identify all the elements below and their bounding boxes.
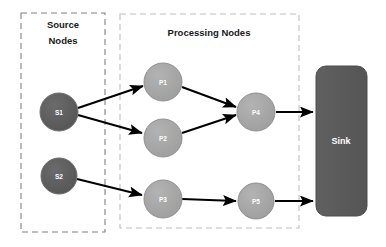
node-p5-label: P5 — [252, 198, 260, 205]
group-source-nodes-label-line2: Nodes — [48, 35, 77, 46]
node-p5[interactable]: P5 — [238, 183, 274, 219]
node-p1-label: P1 — [159, 79, 167, 86]
group-source-nodes-label-line1: Source — [47, 19, 79, 30]
node-p4-label: P4 — [252, 109, 260, 116]
diagram-canvas: Source Nodes Processing Nodes Sink — [0, 0, 386, 247]
group-processing-nodes-label: Processing Nodes — [168, 27, 251, 38]
node-p3[interactable]: P3 — [144, 180, 182, 218]
node-s2-label: S2 — [55, 173, 63, 180]
edge-p3-p5 — [182, 199, 236, 201]
node-s1-label: S1 — [55, 109, 63, 116]
diagram-svg: Source Nodes Processing Nodes Sink — [0, 0, 386, 247]
sink-label: Sink — [331, 136, 351, 146]
node-p2-label: P2 — [159, 135, 167, 142]
node-p1[interactable]: P1 — [144, 63, 182, 101]
node-s2[interactable]: S2 — [41, 158, 77, 194]
edge-p2-p4 — [182, 115, 236, 133]
node-s1[interactable]: S1 — [40, 93, 78, 131]
edge-s1-p2 — [78, 115, 142, 133]
edge-s1-p1 — [78, 86, 143, 108]
node-sink[interactable]: Sink — [316, 66, 367, 216]
node-p3-label: P3 — [159, 196, 167, 203]
edges — [77, 86, 313, 201]
edge-p1-p4 — [182, 87, 236, 107]
node-p4[interactable]: P4 — [237, 93, 275, 131]
node-p2[interactable]: P2 — [144, 119, 182, 157]
edge-s2-p3 — [77, 179, 142, 195]
